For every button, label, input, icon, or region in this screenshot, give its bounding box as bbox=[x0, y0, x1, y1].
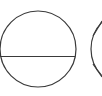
wedge-line-upper bbox=[93, 21, 102, 36]
circle-outline bbox=[0, 11, 76, 87]
drawing-canvas bbox=[0, 0, 102, 96]
circle-with-wedge-lines-icon bbox=[91, 11, 102, 87]
circle-with-horizontal-line-icon bbox=[0, 11, 76, 87]
wedge-line-lower bbox=[93, 64, 102, 77]
